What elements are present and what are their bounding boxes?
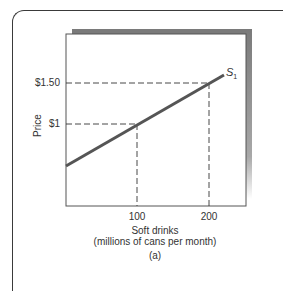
y-tick-label: $1.50 (20, 77, 60, 88)
x-axis-label: Soft drinks (millions of cans per month) (75, 225, 235, 247)
frame-shadow-top (72, 29, 252, 34)
y-axis-label: Price (32, 114, 43, 137)
figure-caption: (a) (75, 250, 235, 261)
frame-shadow-right (246, 29, 252, 199)
series-label-s1: S1 (226, 66, 237, 80)
plot-area (66, 34, 246, 206)
x-axis-label-line1: Soft drinks (75, 225, 235, 236)
x-tick-label: 200 (189, 211, 229, 222)
x-tick-label: 100 (117, 211, 157, 222)
x-axis-label-line2: (millions of cans per month) (75, 236, 235, 247)
